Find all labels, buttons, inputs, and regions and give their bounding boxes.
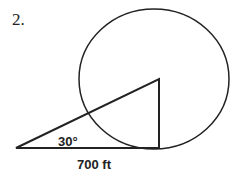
angle-label: 30° xyxy=(58,134,78,149)
geometry-diagram: 30° 700 ft xyxy=(0,0,239,174)
distance-label: 700 ft xyxy=(77,157,112,172)
right-triangle xyxy=(16,79,159,148)
circle xyxy=(79,9,229,149)
